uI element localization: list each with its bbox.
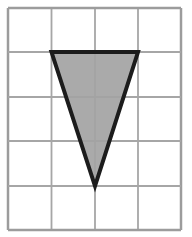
grid-diagram bbox=[0, 0, 192, 237]
